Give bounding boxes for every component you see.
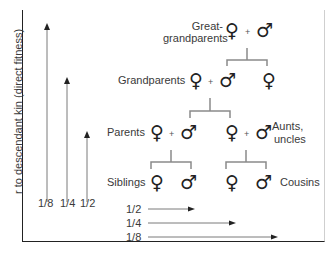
- parents-label: Parents: [107, 126, 145, 138]
- plus-sign: +: [169, 129, 174, 139]
- aunts-uncles-label-line1: Aunts,: [272, 120, 303, 132]
- great-grandparents-label-line2: grandparents: [163, 32, 223, 44]
- bracket-grandparents: [190, 98, 230, 118]
- grandparents-label: Grandparents: [118, 74, 185, 86]
- male-icon: ♂: [219, 70, 236, 90]
- plus-sign: +: [208, 77, 213, 87]
- bracket-aunts-uncles: [226, 150, 266, 169]
- horizontal-arrow-label-1-2: 1/2: [126, 203, 141, 215]
- bracket-great-grandparents: [227, 48, 267, 66]
- female-icon: ♀: [262, 70, 276, 90]
- bracket-parents: [151, 150, 191, 169]
- vertical-arrow-1-2: [84, 131, 90, 202]
- great-grandparents-label-line1: Great-: [183, 20, 223, 32]
- vertical-arrow-label-1-2: 1/2: [80, 197, 95, 209]
- male-icon: ♂: [255, 172, 272, 192]
- horizontal-arrow-label-1-8: 1/8: [126, 231, 141, 243]
- aunts-uncles-label-line2: uncles: [274, 133, 306, 145]
- vertical-arrow-1-8: [44, 23, 50, 202]
- horizontal-arrow-1-4: [148, 221, 236, 226]
- horizontal-arrow-1-2: [148, 207, 195, 212]
- male-icon: ♂: [180, 172, 197, 192]
- vertical-arrow-1-4: [64, 77, 70, 202]
- male-icon: ♂: [180, 122, 197, 142]
- horizontal-arrow-label-1-4: 1/4: [126, 217, 141, 229]
- cousins-label: Cousins: [280, 176, 320, 188]
- siblings-label: Siblings: [107, 176, 146, 188]
- plus-sign: +: [245, 27, 250, 37]
- female-icon: ♀: [225, 172, 239, 192]
- male-icon: ♂: [256, 20, 273, 40]
- female-icon: ♀: [189, 70, 203, 90]
- vertical-arrow-label-1-4: 1/4: [60, 197, 75, 209]
- male-icon: ♂: [255, 122, 272, 142]
- horizontal-arrow-1-8: [148, 235, 278, 240]
- female-icon: ♀: [225, 20, 239, 40]
- female-icon: ♀: [225, 122, 239, 142]
- female-icon: ♀: [150, 172, 164, 192]
- female-icon: ♀: [150, 122, 164, 142]
- plus-sign: +: [244, 129, 249, 139]
- vertical-arrow-label-1-8: 1/8: [38, 197, 53, 209]
